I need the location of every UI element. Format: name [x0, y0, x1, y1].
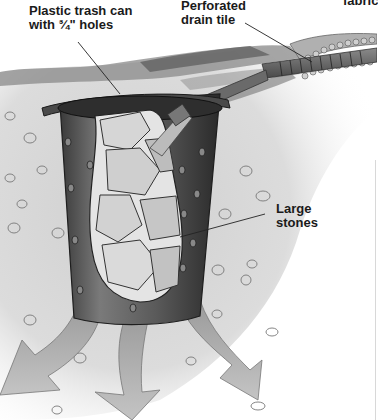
label-stones-line2: stones: [276, 215, 318, 230]
label-drain-tile: Perforateddrain tile: [181, 0, 246, 27]
label-large-stones: Largestones: [276, 202, 318, 230]
label-trash-can-line2: with ¾" holes: [29, 17, 113, 32]
label-stones-line1: Large: [276, 201, 311, 216]
label-fabric: fabric: [343, 0, 378, 8]
label-trash-can: Plastic trash canwith ¾" holes: [29, 4, 132, 32]
label-drain-tile-line2: drain tile: [181, 12, 235, 27]
label-trash-can-line1: Plastic trash can: [29, 3, 132, 18]
label-fabric-text: fabric: [343, 0, 378, 8]
image-edge-divider: [375, 160, 376, 420]
